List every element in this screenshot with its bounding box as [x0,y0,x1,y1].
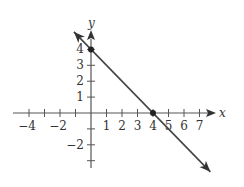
x-tick-label: −4 [18,119,36,133]
series-line [74,32,210,172]
x-tick-label: 6 [180,119,188,133]
x-tick-label: 1 [103,119,111,133]
y-axis-title: y [87,16,95,30]
x-axis-title: x [219,106,226,120]
y-tick-label: 4 [76,42,84,56]
x-tick-label: −2 [49,119,67,133]
y-tick-label: 2 [76,74,84,88]
series [74,32,210,172]
x-tick-label: 2 [118,119,126,133]
intercept-point [150,110,156,116]
x-tick-label: 4 [149,119,157,133]
ticks [29,49,200,160]
y-axis-arrow-icon [87,30,95,40]
y-tick-label: 1 [76,90,84,104]
y-tick-label: −2 [66,138,84,152]
intercept-point [88,46,94,52]
y-tick-label: 3 [76,58,84,72]
coordinate-plane: −4−212345674321−2 x y [0,0,244,187]
x-tick-label: 3 [134,119,142,133]
x-tick-label: 7 [196,119,204,133]
